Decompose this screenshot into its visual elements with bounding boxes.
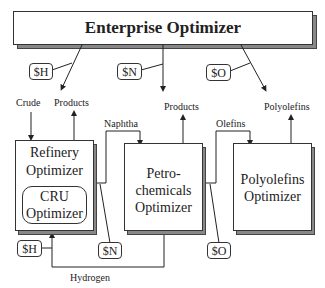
olefins-label: Olefins [216,118,245,129]
refinery-line1: Refinery [16,144,93,162]
petro-line2: chemicals [125,182,202,200]
price-tag-o-top: $O [206,64,231,81]
poly-line1: Polyolefins [234,171,311,189]
crude-label: Crude [16,97,40,108]
price-tag-n-bottom: $N [98,242,122,259]
polyolefins-optimizer-box: Polyolefins Optimizer [233,143,312,231]
refinery-optimizer-box: Refinery Optimizer CRU Optimizer [15,140,94,231]
hydrogen-label: Hydrogen [70,272,110,283]
cru-optimizer-box: CRU Optimizer [22,186,87,224]
price-tag-h-bottom: $H [17,240,42,257]
cru-line2: Optimizer [23,205,86,223]
petro-line3: Optimizer [125,199,202,217]
price-tag-o-bottom: $O [207,242,231,259]
petro-products-label: Products [164,101,199,112]
naphtha-label: Naphtha [104,118,138,129]
refinery-products-label: Products [54,97,89,108]
cru-line1: CRU [23,188,86,206]
petro-line1: Petro- [125,165,202,183]
poly-line2: Optimizer [234,188,311,206]
petrochemicals-optimizer-box: Petro- chemicals Optimizer [124,143,203,231]
price-tag-h-top: $H [29,63,53,80]
price-tag-n-top: $N [117,63,142,80]
refinery-line2: Optimizer [16,162,93,180]
polyolefins-label: Polyolefins [264,101,310,112]
